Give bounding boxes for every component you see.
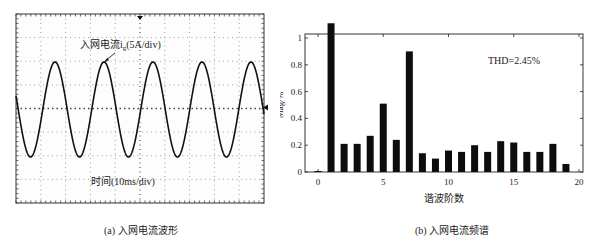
y-tick-label: 1 [298,33,303,43]
oscilloscope-screen: 入网电流ig(5A/div)时间(10ms/div) [0,0,280,241]
bar-harmonic-6 [393,140,400,172]
bar-harmonic-1 [328,23,335,172]
bar-harmonic-2 [341,144,348,172]
bar-harmonic-18 [549,144,556,172]
spectrum-caption: (b) 入网电流频谱 [415,222,489,237]
scope-panel: 入网电流ig(5A/div)时间(10ms/div) (a) 入网电流波形 [0,0,280,241]
bar-harmonic-5 [380,104,387,172]
bar-harmonic-7 [406,51,413,172]
bar-harmonic-19 [562,164,569,172]
bar-harmonic-10 [445,151,452,172]
spectrum-bar-chart: 00.20.40.60.8105101520THD=2.45%Mag/%谐波阶数 [280,0,596,241]
x-tick-label: 10 [444,177,454,187]
y-tick-label: 0.8 [291,60,303,70]
y-tick-label: 0.2 [291,140,302,150]
bar-harmonic-11 [458,152,465,172]
x-axis-label: 谐波阶数 [424,192,464,204]
time-scale-label: 时间(10ms/div) [91,175,155,188]
y-axis-label: Mag/% [280,91,285,118]
bar-harmonic-9 [432,159,439,172]
scope-caption: (a) 入网电流波形 [104,222,178,237]
bar-harmonic-15 [510,143,517,172]
bar-harmonic-13 [484,152,491,172]
y-tick-label: 0.6 [291,87,303,97]
bar-harmonic-3 [354,144,361,172]
bar-harmonic-17 [536,152,543,172]
bar-harmonic-16 [523,152,530,172]
bar-harmonic-8 [419,153,426,172]
x-tick-label: 5 [381,177,386,187]
harmonic-bars [315,23,570,172]
thd-label: THD=2.45% [488,55,540,66]
y-tick-label: 0 [298,167,303,177]
current-annotation: 入网电流ig(5A/div) [80,38,161,52]
spectrum-panel: 00.20.40.60.8105101520THD=2.45%Mag/%谐波阶数… [280,0,596,241]
bar-harmonic-4 [367,136,374,172]
x-tick-label: 15 [509,177,519,187]
x-tick-label: 20 [575,177,585,187]
y-tick-label: 0.4 [291,113,303,123]
bar-harmonic-14 [497,141,504,172]
bar-harmonic-12 [471,145,478,172]
x-tick-label: 0 [316,177,321,187]
